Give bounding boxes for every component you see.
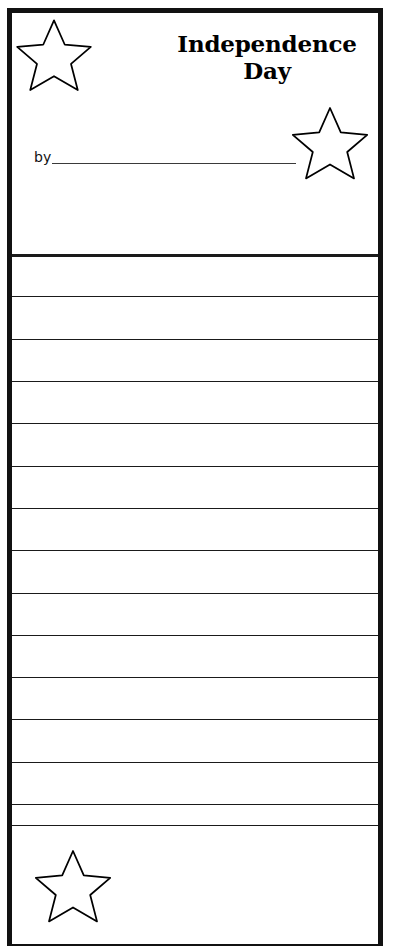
page-title-line-2: Day [162,58,372,85]
byline: by [34,150,296,165]
byline-label: by [34,150,51,165]
byline-input-rule[interactable] [52,163,296,164]
worksheet-page: Independence Day by [0,0,394,951]
star-icon [290,105,370,183]
star-icon [14,18,94,94]
star-icon [33,848,113,926]
page-title: Independence Day [162,31,372,84]
page-title-line-1: Independence [162,31,372,58]
